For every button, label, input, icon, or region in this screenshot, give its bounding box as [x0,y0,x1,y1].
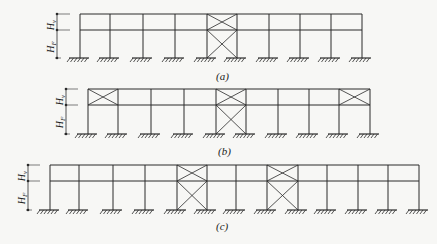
columns [50,165,419,210]
height-dimension: HvHF [45,13,70,60]
x-bracing [207,14,237,58]
frame-panel-a: HvHF [45,13,371,62]
label-lower-height: HF [54,116,67,129]
columns [80,14,362,58]
beams [80,14,362,30]
frame-panel-b: HvHF [54,88,379,138]
beams [50,165,419,181]
caption-c: (c) [216,220,228,232]
fixed-support-icons [67,58,371,62]
x-bracing [88,89,370,134]
fixed-support-icons [37,210,428,214]
x-bracing [177,165,298,210]
fixed-support-icons [75,134,379,138]
label-lower-height: HF [45,41,58,54]
height-dimension: HvHF [54,88,78,136]
caption-a: (a) [216,70,229,82]
caption-b: (b) [218,145,231,157]
height-dimension: HvHF [16,164,40,212]
frame-diagram: HvHFHvHFHvHF [0,0,437,244]
beams [88,89,370,105]
label-lower-height: HF [16,192,29,205]
frame-panel-c: HvHF [16,164,428,214]
